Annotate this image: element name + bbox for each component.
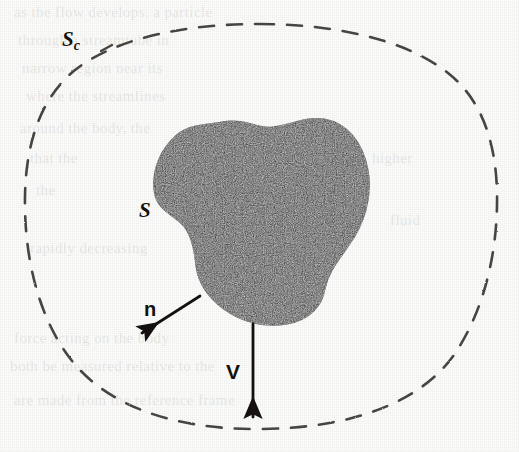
control-surface-label-subscript: c (74, 38, 80, 53)
control-volume-figure: as the flow develops. a particle through… (0, 0, 519, 452)
normal-vector-label: n (144, 299, 156, 319)
figure-canvas (0, 0, 519, 452)
body-surface-label: S (139, 200, 151, 221)
control-surface-label: Sc (62, 29, 80, 53)
control-surface-label-symbol: S (62, 27, 74, 51)
sc-leader-line (101, 45, 112, 51)
material-body-blob (155, 119, 369, 324)
velocity-vector-label: V (226, 361, 240, 382)
